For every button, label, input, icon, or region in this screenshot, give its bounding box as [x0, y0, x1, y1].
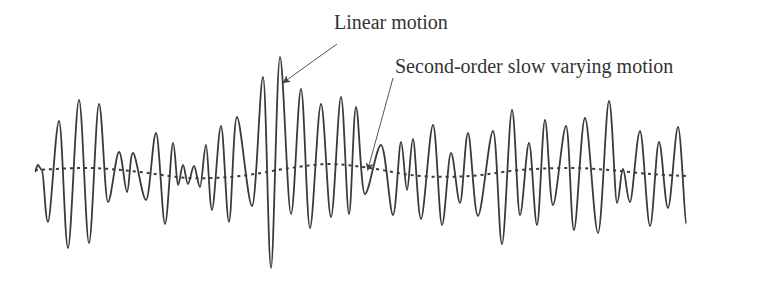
linear-motion-label: Linear motion	[334, 12, 448, 32]
waveform-plot	[0, 0, 764, 284]
linear-motion-arrow	[284, 44, 337, 82]
motion-diagram: Linear motion Second-order slow varying …	[0, 0, 764, 284]
second-order-motion-label: Second-order slow varying motion	[395, 56, 673, 76]
linear-motion-curve	[35, 57, 686, 268]
second-order-arrow	[368, 78, 393, 169]
